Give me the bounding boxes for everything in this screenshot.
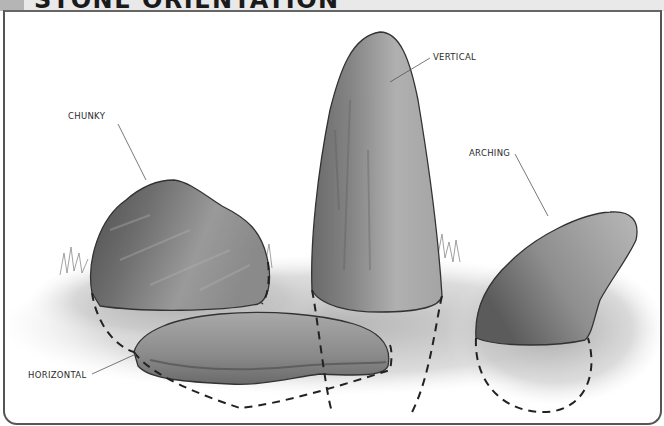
label-vertical: VERTICAL	[433, 52, 476, 62]
horizontal-stone	[134, 312, 389, 384]
label-horizontal: HORIZONTAL	[28, 370, 86, 380]
label-arching: ARCHING	[469, 148, 510, 158]
vertical-stone	[312, 32, 442, 312]
stones-illustration	[3, 10, 662, 425]
illustration-frame: CHUNKY VERTICAL ARCHING HORIZONTAL	[3, 10, 662, 425]
label-chunky: CHUNKY	[68, 111, 105, 121]
chunky-stone	[91, 180, 270, 310]
